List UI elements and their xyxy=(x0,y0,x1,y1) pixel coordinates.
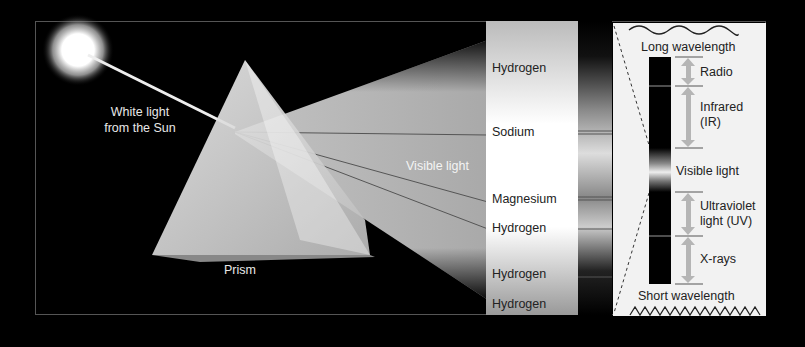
band-label-infrared: Infrared (IR) xyxy=(700,100,743,130)
sun-icon xyxy=(42,14,114,86)
line-label-hydrogen-4: Hydrogen xyxy=(492,297,546,311)
line-label-sodium: Sodium xyxy=(492,125,534,139)
visible-light-beam-label: Visible light xyxy=(406,158,469,174)
band-label-radio: Radio xyxy=(700,65,733,79)
line-label-magnesium: Magnesium xyxy=(492,192,557,206)
band-label-visible: Visible light xyxy=(676,164,739,178)
prism-label: Prism xyxy=(224,262,256,278)
long-wavelength-label: Long wavelength xyxy=(641,40,736,54)
spectrum-band xyxy=(578,21,612,315)
line-label-hydrogen-1: Hydrogen xyxy=(492,61,546,75)
line-label-hydrogen-2: Hydrogen xyxy=(492,221,546,235)
short-wavelength-label: Short wavelength xyxy=(638,289,735,303)
line-label-hydrogen-3: Hydrogen xyxy=(492,267,546,281)
band-label-xrays: X-rays xyxy=(700,252,736,266)
sun-label: White light from the Sun xyxy=(100,104,180,136)
band-label-ultraviolet: Ultraviolet light (UV) xyxy=(700,199,756,229)
